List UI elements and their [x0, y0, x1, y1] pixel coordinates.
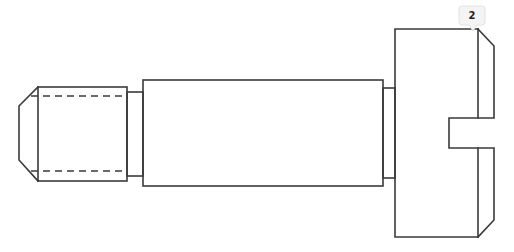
- head-slot-profile: [449, 29, 494, 237]
- thread-body: [38, 87, 127, 181]
- thread-undercut: [127, 92, 143, 176]
- item-balloon[interactable]: 2: [459, 6, 485, 31]
- head-collar: [383, 88, 395, 178]
- screw-head: [395, 29, 494, 237]
- technical-drawing: 2: [0, 0, 514, 252]
- threaded-end: [19, 87, 127, 181]
- tip-chamfer: [19, 87, 38, 181]
- balloon-label: 2: [469, 10, 476, 21]
- shoulder-shank: [143, 80, 383, 186]
- head-outline: [395, 29, 478, 237]
